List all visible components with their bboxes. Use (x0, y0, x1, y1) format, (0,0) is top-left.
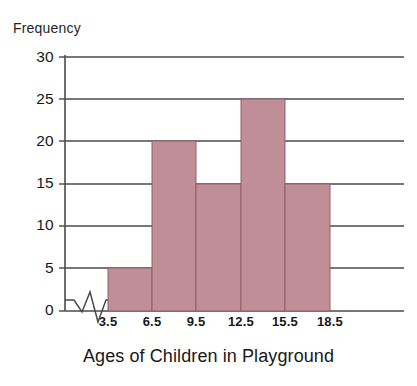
axis-break-zigzag-icon (65, 292, 108, 322)
plot-area (0, 0, 417, 386)
histogram-chart: Frequency 30 25 20 15 10 5 0 3.5 6.5 9.5… (0, 0, 417, 386)
bar-12-5-to-15-5 (241, 99, 285, 311)
bar-3-5-to-6-5 (108, 268, 152, 311)
bar-6-5-to-9-5 (152, 141, 196, 311)
bar-15-5-to-18-5 (285, 184, 330, 311)
y-axis (59, 55, 65, 311)
bar-9-5-to-12-5 (196, 184, 241, 311)
bars (108, 99, 330, 311)
